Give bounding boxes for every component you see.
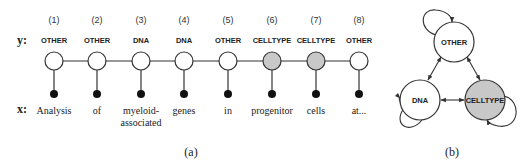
- observed-node: [268, 90, 276, 98]
- token-word: in: [224, 105, 232, 116]
- label-tag: CELLTYPE: [297, 36, 336, 45]
- state-label: DNA: [412, 96, 429, 105]
- position-index: (6): [267, 15, 278, 25]
- label-tag: DNA: [176, 36, 193, 45]
- observed-node: [137, 90, 145, 98]
- position-index: (1): [49, 15, 60, 25]
- token-word: Analysis: [37, 105, 72, 116]
- hidden-node: [175, 52, 193, 70]
- token-word: genes: [173, 105, 196, 116]
- hidden-node: [219, 52, 237, 70]
- crf-diagram: y: x: (1) OTHER Analysis (2) OTHER of (3…: [0, 0, 530, 165]
- label-tag: OTHER: [41, 36, 68, 45]
- label-tag: OTHER: [84, 36, 111, 45]
- position-8: (8) OTHER at...: [346, 15, 373, 116]
- hidden-node-shaded: [263, 52, 281, 70]
- panel-b: OTHER DNA CELLTYPE (b): [399, 10, 516, 159]
- position-6: (6) CELLTYPE progenitor: [251, 15, 293, 116]
- observed-node: [355, 90, 363, 98]
- caption-a: (a): [184, 145, 197, 159]
- token-word-line2: associated: [120, 117, 161, 128]
- caption-b: (b): [445, 145, 459, 159]
- panel-a: y: x: (1) OTHER Analysis (2) OTHER of (3…: [17, 15, 373, 159]
- observed-node: [224, 90, 232, 98]
- edge-other-dna: [428, 57, 441, 80]
- position-1: (1) OTHER Analysis: [37, 15, 72, 116]
- hidden-node-shaded: [307, 52, 325, 70]
- hidden-node: [132, 52, 150, 70]
- label-tag: OTHER: [215, 36, 242, 45]
- label-tag: CELLTYPE: [253, 36, 292, 45]
- position-4: (4) DNA genes: [173, 15, 196, 116]
- token-word: cells: [307, 105, 325, 116]
- token-word: myeloid-: [123, 105, 159, 116]
- position-index: (7): [311, 15, 322, 25]
- position-index: (4): [179, 15, 190, 25]
- position-index: (8): [354, 15, 365, 25]
- observed-node: [50, 90, 58, 98]
- observed-node: [312, 90, 320, 98]
- label-tag: DNA: [133, 36, 150, 45]
- position-index: (2): [92, 15, 103, 25]
- y-row-label: y:: [17, 33, 27, 47]
- observed-node: [180, 90, 188, 98]
- position-3: (3) DNA myeloid- associated: [120, 15, 161, 128]
- edge-other-celltype: [467, 57, 480, 80]
- token-word: of: [93, 105, 102, 116]
- position-5: (5) OTHER in: [215, 15, 242, 116]
- label-tag: OTHER: [346, 36, 373, 45]
- token-word: progenitor: [251, 105, 293, 116]
- observed-node: [93, 90, 101, 98]
- hidden-node: [88, 52, 106, 70]
- position-2: (2) OTHER of: [84, 15, 111, 116]
- hidden-node: [350, 52, 368, 70]
- hidden-node: [45, 52, 63, 70]
- position-index: (3): [136, 15, 147, 25]
- token-word: at...: [352, 105, 367, 116]
- position-index: (5): [223, 15, 234, 25]
- state-label: OTHER: [441, 38, 468, 47]
- x-row-label: x:: [17, 102, 27, 116]
- state-label: CELLTYPE: [466, 96, 505, 105]
- position-7: (7) CELLTYPE cells: [297, 15, 336, 116]
